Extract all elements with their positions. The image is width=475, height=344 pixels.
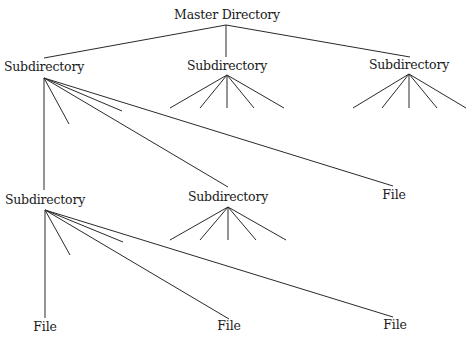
tree-edge — [227, 75, 254, 108]
tree-edge — [409, 74, 466, 108]
tree-edge — [200, 75, 227, 108]
tree-edge — [409, 74, 437, 108]
tree-edge — [382, 74, 409, 108]
tree-edge — [227, 75, 284, 108]
tree-edge — [200, 207, 228, 240]
node-subdirectory-top-right: Subdirectory — [369, 59, 449, 72]
tree-edge — [44, 78, 228, 187]
tree-edge — [44, 25, 226, 58]
tree-edge — [45, 210, 229, 319]
tree-edge — [353, 74, 409, 108]
node-file-bottom-middle: File — [217, 320, 240, 333]
node-subdirectory-top-middle: Subdirectory — [187, 60, 267, 73]
node-master-directory: Master Directory — [174, 9, 280, 22]
tree-edge — [170, 75, 227, 108]
node-file-bottom-left: File — [33, 321, 56, 334]
tree-edge — [44, 78, 393, 186]
node-subdirectory-bottom-left: Subdirectory — [5, 194, 85, 207]
tree-edge — [45, 210, 393, 317]
node-subdirectory-bottom-middle: Subdirectory — [188, 191, 268, 204]
node-file-bottom-right: File — [383, 319, 406, 332]
directory-tree-diagram: Master Directory Subdirectory Subdirecto… — [0, 0, 475, 344]
tree-edge — [44, 78, 122, 111]
tree-edge — [226, 25, 410, 57]
node-file-middle-right: File — [382, 189, 405, 202]
tree-edge — [170, 207, 228, 240]
tree-edges — [0, 0, 475, 344]
tree-edge — [45, 210, 123, 242]
tree-edge — [228, 207, 256, 240]
node-subdirectory-top-left: Subdirectory — [4, 61, 84, 74]
tree-edge — [228, 207, 286, 240]
